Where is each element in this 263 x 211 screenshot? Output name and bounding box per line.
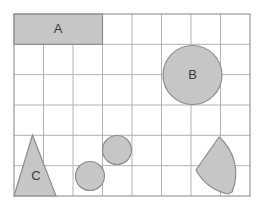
circle-b-label: B: [188, 67, 197, 82]
circle-small-lower: [76, 162, 105, 191]
shapes-grid-diagram: ABC: [0, 0, 263, 211]
figure-canvas: ABC: [0, 0, 263, 211]
triangle-c-label: C: [31, 168, 40, 183]
rectangle-a-label: A: [54, 21, 63, 36]
circle-small-upper: [103, 136, 132, 165]
